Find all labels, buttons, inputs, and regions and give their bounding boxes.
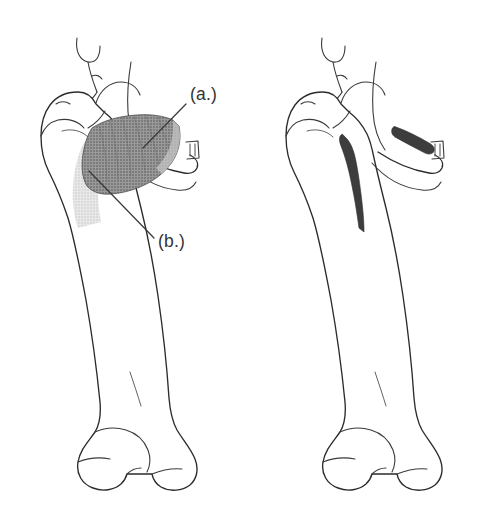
acetabulum-left [96,82,140,103]
origin-attachment-mark [392,127,435,154]
femur-outline-right [286,92,442,490]
anatomy-svg: (a.) (b.) [0,0,491,521]
callout-label-a: (a.) [190,84,217,104]
inferior-pubic-ramus-right [378,152,443,173]
anatomy-figure: (a.) (b.) [0,0,491,521]
callout-label-b: (b.) [158,231,185,251]
panel-right-attachment-view [286,38,444,490]
panel-left-muscle-view: (a.) (b.) [41,38,217,490]
ilium-wall-right [373,62,385,150]
acetabulum-right [341,82,385,103]
muscle-belly-a [82,115,180,194]
